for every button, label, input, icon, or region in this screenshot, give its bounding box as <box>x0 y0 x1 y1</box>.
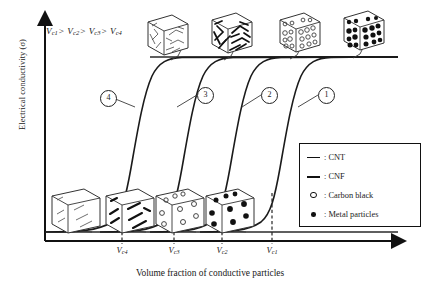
ineq-term-4: Vc4 <box>110 26 122 36</box>
legend-row-cnf: : CNF <box>307 172 345 181</box>
inset-carbon-black-dilute-cube <box>156 189 204 233</box>
legend-box: : CNT : CNF : Carbon black : Metal parti… <box>299 143 421 227</box>
legend-row-metal-particles: : Metal particles <box>307 210 378 219</box>
x-tick-label-vc4: Vc4 <box>107 245 137 255</box>
ineq-op-2: > <box>80 26 85 36</box>
inset-metal-particles-dilute-cube <box>206 189 254 233</box>
curve-label-1: 1 <box>318 87 335 104</box>
y-axis-label: Electrical conductivity (σ) <box>18 0 27 175</box>
ineq-term-3: Vc3 <box>89 26 101 36</box>
x-tick-label-vc1: Vc1 <box>257 245 287 255</box>
inset-metal-particles-packed-cube <box>344 11 384 50</box>
inset-cnt-dilute-cube <box>106 189 154 233</box>
legend-label-cnt: : CNT <box>324 153 345 162</box>
inequality-annotation: Vc1> Vc2> Vc3> Vc4 <box>46 26 122 36</box>
line-thick-swatch-icon <box>307 176 320 178</box>
inset-cnf-network-cube <box>148 15 188 55</box>
inset-carbon-black-packed-cube <box>280 13 320 52</box>
legend-row-carbon-black: : Carbon black <box>307 191 373 200</box>
inset-cnt-network-cube <box>212 13 252 53</box>
x-tick-label-vc3: Vc3 <box>159 245 189 255</box>
curve-label-3: 3 <box>197 87 214 104</box>
ineq-op-3: > <box>102 26 107 36</box>
ineq-term-2: Vc2 <box>67 26 79 36</box>
percolation-chart-figure: 4 3 2 1 Vc1> Vc2> Vc3> Vc4 Vc4 Vc3 Vc2 V… <box>0 0 429 291</box>
legend-label-metal-particles: : Metal particles <box>324 210 378 219</box>
filled-circle-icon <box>307 210 320 219</box>
ineq-term-1: Vc1 <box>46 26 58 36</box>
line-thin-swatch-icon <box>307 157 320 158</box>
x-tick-label-vc2: Vc2 <box>207 245 237 255</box>
open-circle-icon <box>307 191 320 200</box>
curve-label-4: 4 <box>100 90 117 107</box>
legend-label-cnf: : CNF <box>324 172 345 181</box>
curve-label-2: 2 <box>261 87 278 104</box>
x-axis-label: Volume fraction of conductive particles <box>60 268 360 278</box>
legend-row-cnt: : CNT <box>307 153 345 162</box>
ineq-op-1: > <box>59 26 64 36</box>
inset-cnf-dilute-cube <box>52 189 100 233</box>
leader-1 <box>298 95 318 107</box>
legend-label-carbon-black: : Carbon black <box>324 191 373 200</box>
